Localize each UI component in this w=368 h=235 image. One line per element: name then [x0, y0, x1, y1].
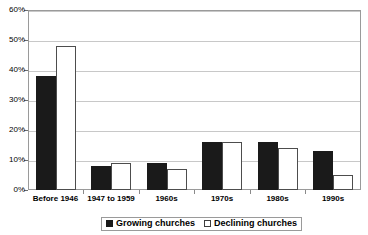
category-separator — [194, 190, 195, 194]
bar-group — [195, 10, 251, 190]
hollow-square-icon — [204, 220, 211, 227]
legend-item-declining-churches: Declining churches — [204, 219, 297, 228]
bar-group — [28, 10, 84, 190]
y-axis-label-0: 0% — [0, 186, 25, 194]
bar-declining — [167, 169, 187, 190]
bar-chart: 60% 50% 40% 30% 20% 10% 0% Before 1946 1… — [0, 0, 368, 235]
x-axis-label-1990s: 1990s — [305, 195, 361, 204]
chart-legend: Growing churches Declining churches — [101, 217, 302, 231]
bar-growing — [258, 142, 278, 190]
y-axis-label-60: 60% — [0, 6, 25, 14]
bar-growing — [91, 166, 111, 190]
x-axis-label-before-1946: Before 1946 — [28, 195, 83, 204]
legend-item-growing-churches: Growing churches — [106, 219, 195, 228]
bar-growing — [36, 76, 56, 190]
x-axis-label-1960s: 1960s — [139, 195, 194, 204]
y-axis-label-30: 30% — [0, 96, 25, 104]
y-axis-label-50: 50% — [0, 36, 25, 44]
bar-group — [84, 10, 140, 190]
bar-growing — [202, 142, 222, 190]
category-separator — [83, 190, 84, 194]
x-axis-label-1980s: 1980s — [250, 195, 305, 204]
bar-group — [306, 10, 362, 190]
bar-growing — [313, 151, 333, 190]
bar-declining — [56, 46, 76, 190]
legend-label-declining-churches: Declining churches — [214, 219, 297, 228]
legend-label-growing-churches: Growing churches — [116, 219, 195, 228]
y-axis-label-10: 10% — [0, 156, 25, 164]
category-separator — [305, 190, 306, 194]
bar-declining — [333, 175, 353, 190]
category-separator — [139, 190, 140, 194]
bars-layer — [28, 10, 361, 190]
filled-square-icon — [106, 220, 113, 227]
y-axis-label-40: 40% — [0, 66, 25, 74]
bar-group — [250, 10, 306, 190]
bar-declining — [222, 142, 242, 190]
x-axis-label-1947-to-1959: 1947 to 1959 — [83, 195, 139, 204]
category-separator — [250, 190, 251, 194]
bar-declining — [278, 148, 298, 190]
y-axis-label-20: 20% — [0, 126, 25, 134]
x-axis-label-1970s: 1970s — [194, 195, 250, 204]
bar-declining — [111, 163, 131, 190]
bar-growing — [147, 163, 167, 190]
bar-group — [139, 10, 195, 190]
